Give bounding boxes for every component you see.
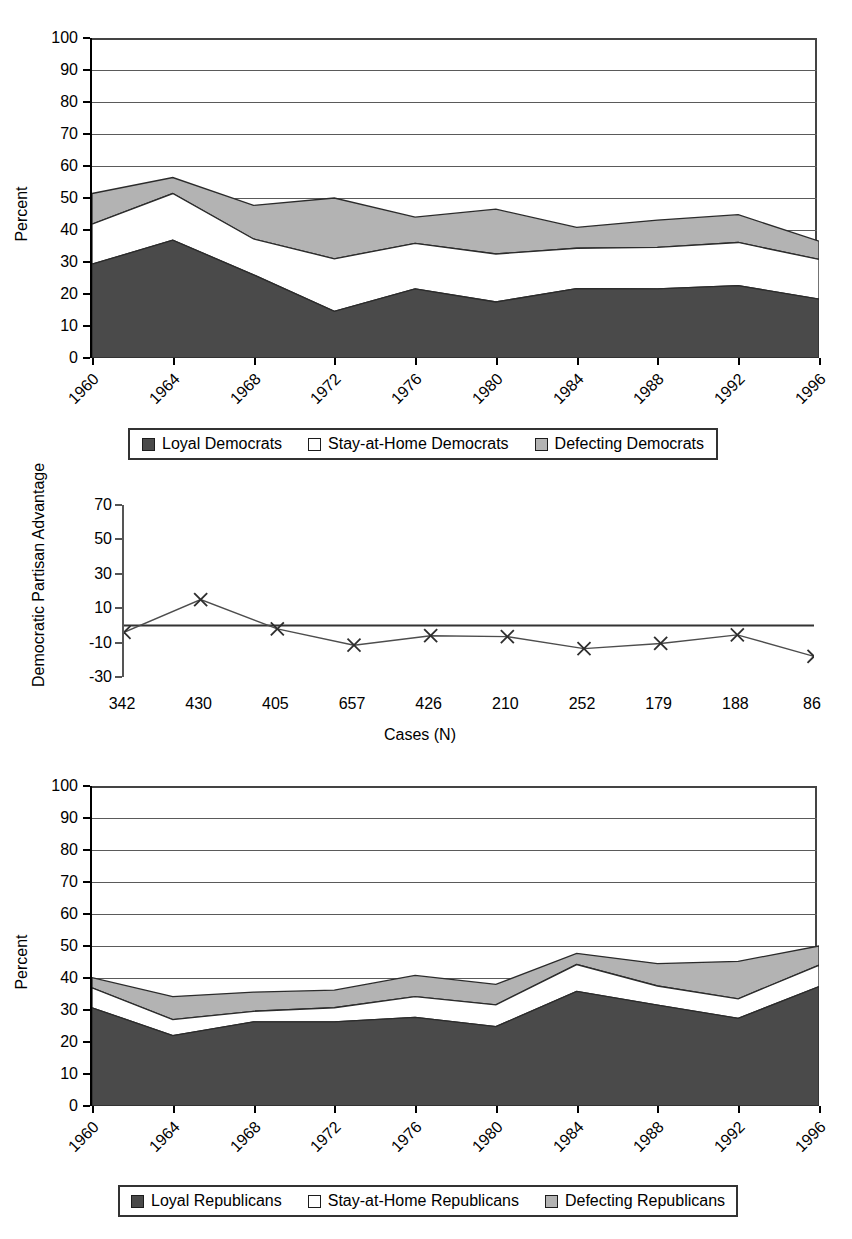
legend-swatch-icon xyxy=(545,1195,558,1208)
case-count-label: 179 xyxy=(645,695,672,713)
x-tick-label: 1972 xyxy=(297,370,345,418)
x-tick-mark xyxy=(496,358,498,365)
y-tick-label: 50 xyxy=(20,189,78,207)
x-tick-label: 1996 xyxy=(782,370,830,418)
y-tick-label: 80 xyxy=(20,93,78,111)
case-count-label: 405 xyxy=(262,695,289,713)
x-tick-mark xyxy=(415,1106,417,1113)
y-tick-label: 50 xyxy=(20,937,78,955)
chart-democrats-ylabel: Percent xyxy=(13,174,31,254)
case-count-label: 430 xyxy=(185,695,212,713)
x-tick-mark xyxy=(334,1106,336,1113)
legend-republicans: Loyal RepublicansStay-at-Home Republican… xyxy=(118,1185,738,1217)
chart-partisan-xlabel: Cases (N) xyxy=(330,726,510,744)
chart-partisan-advantage: Democratic Partisan Advantage 70503010-1… xyxy=(0,488,852,758)
y-tick-mark xyxy=(83,1105,90,1107)
y-tick-mark xyxy=(115,642,122,644)
chart-partisan-line-series xyxy=(124,505,814,677)
y-tick-label: 30 xyxy=(20,253,78,271)
chart-democrats-plot xyxy=(90,38,817,358)
chart-republicans-ylabel: Percent xyxy=(13,922,31,1002)
legend-label: Stay-at-Home Republicans xyxy=(328,1192,519,1210)
legend-item[interactable]: Loyal Democrats xyxy=(142,435,282,453)
y-tick-label: 60 xyxy=(20,157,78,175)
y-tick-mark xyxy=(115,573,122,575)
y-tick-label: 0 xyxy=(20,1097,78,1115)
y-tick-mark xyxy=(115,538,122,540)
y-tick-mark xyxy=(83,1009,90,1011)
y-tick-mark xyxy=(83,945,90,947)
case-count-label: 657 xyxy=(339,695,366,713)
legend-swatch-icon xyxy=(308,438,321,451)
x-tick-label: 1992 xyxy=(701,370,749,418)
y-tick-mark xyxy=(83,785,90,787)
x-tick-label: 1960 xyxy=(55,370,103,418)
x-tick-label: 1964 xyxy=(135,1118,183,1166)
legend-item[interactable]: Stay-at-Home Republicans xyxy=(308,1192,519,1210)
y-tick-mark xyxy=(83,977,90,979)
y-tick-label: 70 xyxy=(20,873,78,891)
y-tick-mark xyxy=(83,357,90,359)
x-tick-label: 1992 xyxy=(701,1118,749,1166)
page-top-text-fragment xyxy=(430,1,850,10)
x-tick-mark xyxy=(173,1106,175,1113)
legend-democrats: Loyal DemocratsStay-at-Home DemocratsDef… xyxy=(128,428,718,460)
x-tick-mark xyxy=(657,1106,659,1113)
x-tick-label: 1988 xyxy=(620,370,668,418)
y-tick-label: 50 xyxy=(52,530,112,548)
x-tick-mark xyxy=(173,358,175,365)
legend-swatch-icon xyxy=(131,1195,144,1208)
y-tick-mark xyxy=(115,607,122,609)
case-count-label: 210 xyxy=(492,695,519,713)
y-tick-mark xyxy=(83,817,90,819)
legend-label: Stay-at-Home Democrats xyxy=(328,435,509,453)
x-tick-label: 1964 xyxy=(135,370,183,418)
x-tick-mark xyxy=(415,358,417,365)
y-tick-mark xyxy=(83,229,90,231)
chart-democrats: Percent 1009080706050403020100 196019641… xyxy=(0,20,852,420)
y-tick-label: 100 xyxy=(20,777,78,795)
y-tick-label: 40 xyxy=(20,221,78,239)
y-tick-label: 90 xyxy=(20,809,78,827)
x-tick-label: 1968 xyxy=(216,370,264,418)
y-tick-label: 100 xyxy=(20,29,78,47)
x-tick-label: 1984 xyxy=(539,370,587,418)
y-tick-mark xyxy=(83,325,90,327)
y-tick-label: 60 xyxy=(20,905,78,923)
x-tick-label: 1972 xyxy=(297,1118,345,1166)
chart-democrats-area-series xyxy=(92,38,819,358)
x-tick-mark xyxy=(738,358,740,365)
x-tick-label: 1968 xyxy=(216,1118,264,1166)
legend-item[interactable]: Stay-at-Home Democrats xyxy=(308,435,509,453)
legend-label: Defecting Republicans xyxy=(565,1192,725,1210)
legend-item[interactable]: Defecting Republicans xyxy=(545,1192,725,1210)
y-tick-mark xyxy=(83,165,90,167)
x-tick-mark xyxy=(92,1106,94,1113)
legend-swatch-icon xyxy=(308,1195,321,1208)
case-count-label: 86 xyxy=(803,695,821,713)
y-tick-label: -30 xyxy=(52,668,112,686)
data-point-marker xyxy=(808,650,815,663)
x-tick-mark xyxy=(819,1106,821,1113)
x-tick-label: 1976 xyxy=(378,1118,426,1166)
x-tick-mark xyxy=(657,358,659,365)
y-tick-mark xyxy=(83,133,90,135)
y-tick-mark xyxy=(83,37,90,39)
x-tick-mark xyxy=(254,1106,256,1113)
x-tick-label: 1980 xyxy=(459,1118,507,1166)
x-tick-label: 1976 xyxy=(378,370,426,418)
y-tick-mark xyxy=(83,913,90,915)
x-tick-mark xyxy=(92,358,94,365)
y-tick-label: 10 xyxy=(20,1065,78,1083)
legend-item[interactable]: Loyal Republicans xyxy=(131,1192,282,1210)
legend-label: Loyal Democrats xyxy=(162,435,282,453)
y-tick-mark xyxy=(83,101,90,103)
x-tick-label: 1960 xyxy=(55,1118,103,1166)
x-tick-mark xyxy=(254,358,256,365)
x-tick-mark xyxy=(334,358,336,365)
legend-item[interactable]: Defecting Democrats xyxy=(535,435,704,453)
legend-swatch-icon xyxy=(142,438,155,451)
x-tick-mark xyxy=(738,1106,740,1113)
y-tick-label: 0 xyxy=(20,349,78,367)
x-tick-mark xyxy=(577,358,579,365)
